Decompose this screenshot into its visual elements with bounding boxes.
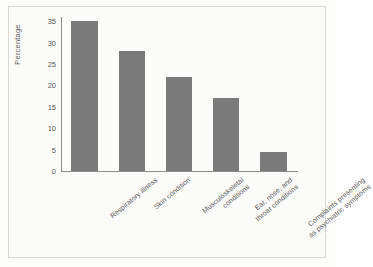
- y-tick-label: 0: [52, 167, 56, 176]
- bar: [71, 21, 97, 171]
- y-tick-label: 35: [48, 17, 56, 26]
- y-tick-label: 10: [48, 124, 56, 133]
- bar: [260, 152, 286, 171]
- y-axis-label: Percentage: [13, 10, 22, 80]
- plot-area: 05101520253035: [61, 17, 297, 171]
- y-tick-label: 15: [48, 102, 56, 111]
- y-tick-label: 5: [52, 145, 56, 154]
- y-tick-label: 30: [48, 38, 56, 47]
- bar: [213, 98, 239, 171]
- bar: [119, 51, 145, 171]
- y-tick-label: 25: [48, 60, 56, 69]
- x-axis-line: [61, 171, 298, 172]
- y-tick-label: 20: [48, 81, 56, 90]
- bar: [166, 77, 192, 171]
